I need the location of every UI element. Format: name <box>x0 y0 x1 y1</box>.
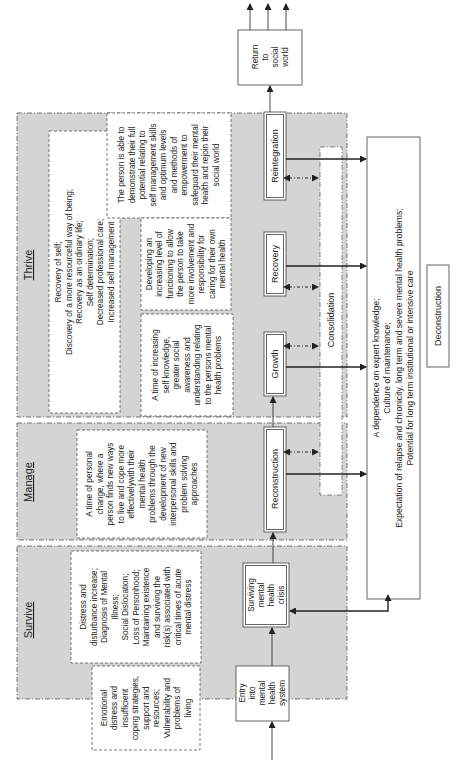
growth-desc-line: greater social <box>172 340 181 389</box>
reintegration-desc-line: potential relating to <box>138 130 147 200</box>
survive-desc-line: mental distress <box>184 579 193 634</box>
thrive-summary-line: Increased self management <box>107 221 116 323</box>
entry-line: Entry <box>238 683 247 703</box>
dependence-line: A dependence on expert knowledge; <box>371 298 381 437</box>
reconstruction-stage: Reconstruction <box>264 427 286 532</box>
entry-line: mental <box>258 681 267 706</box>
surviving-crisis-line: crisis <box>277 586 286 605</box>
recovery-desc-line: responsibility for <box>197 234 206 293</box>
survive-label: Survive <box>22 602 34 639</box>
manage-desc-line: interpersonal skills and <box>169 442 178 526</box>
dependence-line: Culture of maintenance; <box>382 322 392 413</box>
manage-desc-line: person finds new ways <box>106 443 115 526</box>
recovery-desc-line: the person to take <box>176 231 185 297</box>
entry-line: into <box>248 686 257 700</box>
reintegration-desc-line: The person is able to <box>117 126 126 203</box>
return-line: to <box>261 53 270 60</box>
svg-text:Reconstruction: Reconstruction <box>270 449 280 509</box>
growth-desc-line: health problems <box>214 336 223 394</box>
thrive-summary-line: Recovery of self; <box>54 242 63 303</box>
reintegration-desc-line: and optimum levels <box>159 130 168 201</box>
reintegration-desc-line: safeguard their mental <box>191 124 200 206</box>
manage-label: Manage <box>22 462 34 502</box>
consolidation-label: Consolidation <box>326 293 336 348</box>
recovery-desc-line: mental health <box>218 239 227 289</box>
entry-line: health <box>268 681 277 704</box>
entry-line: system <box>278 680 287 706</box>
survive-desc-line: Loss of Personhood; <box>132 569 141 644</box>
dependence-line: Potential for long term institutional or… <box>405 270 415 465</box>
recovery-desc-line: increasing level of <box>155 231 164 297</box>
recovery-desc-line: functioning to allow <box>166 229 175 299</box>
return-line: social <box>271 46 280 67</box>
recovery-stage: Recovery <box>264 232 286 296</box>
entry-desc-line: living <box>184 698 193 717</box>
survive-desc-line: critical times of acute <box>174 568 183 645</box>
entry-desc-line: Emotional <box>100 690 109 727</box>
manage-desc-line: effectivelywith their <box>127 449 136 518</box>
reintegration-desc-line: health and rejoin their <box>201 125 210 204</box>
growth-stage: Growth <box>264 332 286 396</box>
thrive-summary-line: Decreased professional care; <box>96 219 105 326</box>
surviving-crisis-line: mental <box>257 583 266 608</box>
entry-desc-line: resources; <box>152 689 161 727</box>
reintegration-desc-line: demonstrate their full <box>128 127 137 204</box>
manage-desc-line: change, where a <box>96 453 105 514</box>
entry-desc-line: coping strategies, <box>131 676 140 740</box>
svg-text:Growth: Growth <box>270 349 280 378</box>
surviving-crisis-line: Surviving <box>247 578 256 612</box>
entry-desc-line: insufficient <box>121 688 130 727</box>
entry-desc-line: support and <box>142 686 151 730</box>
thrive-summary-line: Recovery as an ordinary life; <box>75 220 84 324</box>
reintegration-desc-line: and methods of <box>170 136 179 193</box>
dependence-line: Expectation of relapse and chronicity, l… <box>394 208 404 527</box>
return-line: Return <box>251 44 260 69</box>
survive-desc-line: Diagnosis of Mental <box>100 571 109 643</box>
manage-desc-line: problem solving <box>180 455 189 513</box>
growth-desc-line: self knowledge, <box>162 337 171 393</box>
return-line: world <box>281 47 290 68</box>
deconstruction-label: Deconstruction <box>433 286 443 346</box>
manage-desc-line: approaches <box>190 463 199 506</box>
entry-desc-line: problems of <box>173 686 182 730</box>
reintegration-desc-line: empowerment to <box>180 134 189 195</box>
recovery-model-diagram: Thrive Manage Survive Recovery of self;D… <box>0 0 463 769</box>
manage-desc-line: mental health <box>138 459 147 509</box>
manage-desc-line: development of new <box>159 447 168 520</box>
svg-text:Recovery: Recovery <box>270 244 280 283</box>
recovery-desc-line: more involvement and <box>187 223 196 304</box>
svg-text:Reintegration: Reintegration <box>270 129 280 183</box>
recovery-desc-line: Developing an <box>145 237 154 290</box>
surviving-crisis-stage: Survivingmentalhealthcrisis <box>243 563 289 627</box>
survive-desc-line: Illness; <box>111 594 120 619</box>
reintegration-desc-line: social world <box>212 143 221 186</box>
manage-desc-line: to live and cope more <box>117 444 126 523</box>
survive-desc-line: disturbance increase; <box>90 568 99 646</box>
survive-desc-line: Maintaining existence <box>142 567 151 646</box>
entry-desc-line: Vulnerability and <box>163 677 172 738</box>
recovery-desc-line: caring for their own <box>208 229 217 299</box>
growth-desc-line: A time of increasing <box>151 329 160 401</box>
thrive-summary-line: Self determination; <box>86 238 95 306</box>
survive-desc-line: Social Dislocation; <box>121 574 130 641</box>
growth-desc-line: to the persons mental <box>204 325 213 404</box>
survive-desc-line: and surviving the <box>153 576 162 638</box>
growth-desc-line: understanding relating <box>193 324 202 405</box>
thrive-label: Thrive <box>22 250 34 281</box>
reintegration-desc-line: self management skills <box>149 124 158 207</box>
survive-desc-line: risk(s) associated with <box>163 566 172 647</box>
reintegration-stage: Reintegration <box>264 112 286 200</box>
manage-desc-line: problems through the <box>148 445 157 523</box>
growth-desc-line: awareness and <box>183 337 192 393</box>
survive-desc-line: Distress and <box>79 584 88 630</box>
surviving-crisis-line: health <box>267 583 276 606</box>
entry-desc-line: distress and <box>110 685 119 730</box>
manage-desc-line: A time of personal <box>85 451 94 517</box>
thrive-summary-line: Discovery of a more resourceful way of b… <box>65 189 74 355</box>
